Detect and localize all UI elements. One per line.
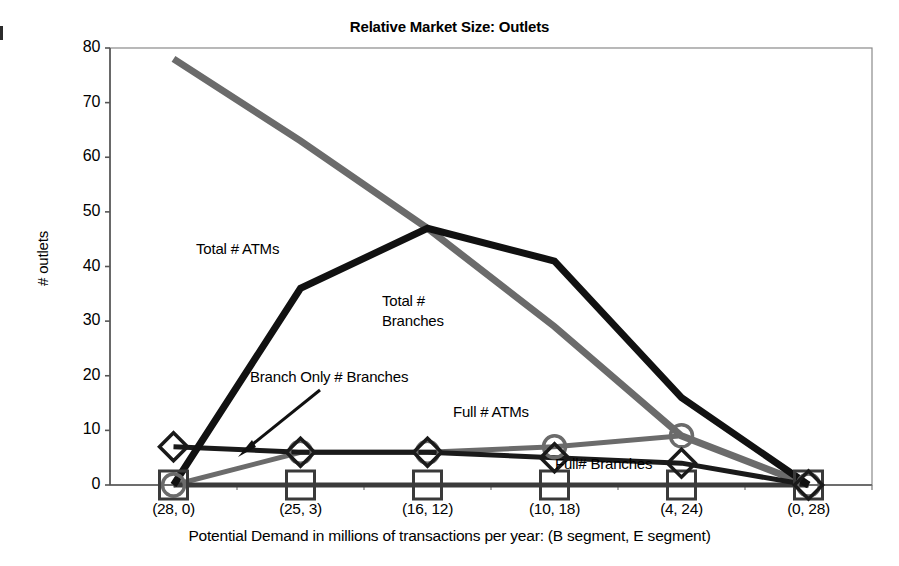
series-annotation: Branch Only # Branches <box>250 368 408 387</box>
y-tick-label: 60 <box>56 147 100 165</box>
plot-area <box>0 0 899 566</box>
x-tick-label: (16, 12) <box>373 500 483 518</box>
chart-figure: Relative Market Size: Outlets # outlets … <box>0 0 899 566</box>
y-tick-label: 80 <box>56 38 100 56</box>
y-tick-label: 40 <box>56 257 100 275</box>
series-annotation: Total # <box>382 292 425 311</box>
series-annotation: Full # ATMs <box>453 403 529 422</box>
series-annotation: Full# Branches <box>555 455 652 474</box>
y-tick-label: 10 <box>56 420 100 438</box>
series-line-branch-only-branches <box>174 447 809 485</box>
series-line-full-atms <box>174 436 809 485</box>
series-annotation: Branches <box>382 312 444 331</box>
y-tick-label: 70 <box>56 93 100 111</box>
x-tick-label: (10, 18) <box>500 500 610 518</box>
axes-layer <box>105 48 872 490</box>
y-tick-label: 30 <box>56 311 100 329</box>
x-tick-label: (4, 24) <box>627 500 737 518</box>
x-tick-label: (25, 3) <box>246 500 356 518</box>
x-tick-label: (28, 0) <box>119 500 229 518</box>
x-tick-label: (0, 28) <box>754 500 864 518</box>
y-tick-label: 50 <box>56 202 100 220</box>
series-annotation: Total # ATMs <box>196 240 279 259</box>
y-tick-label: 20 <box>56 366 100 384</box>
y-tick-label: 0 <box>56 475 100 493</box>
